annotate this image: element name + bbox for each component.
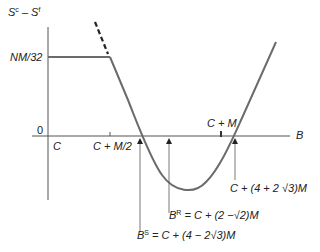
right-root-label: C + (4 + 2 √3)M [230,183,307,194]
x-tick-full: C + M [207,118,237,129]
y-tick-upper: NM/32 [10,52,42,63]
bs-rest: = C + (4 − 2√3)M [149,229,235,241]
br-rest: = C + (2 −√2)M [181,209,258,221]
y-axis-label: Sc – Sf [8,6,40,18]
parabola-curve [110,42,276,190]
arrowhead-bs [137,138,143,144]
x-tick-half: C + M/2 [93,141,132,152]
br-label: BR = C + (2 −√2)M [169,209,259,221]
arrowhead-br [166,138,172,144]
bs-label: BS = C + (4 − 2√3)M [137,229,235,241]
y-label-sup-f: f [38,6,40,13]
diagram-canvas [0,0,320,252]
dashed-segment [95,22,108,54]
y-tick-zero: 0 [37,125,43,136]
y-label-minus: – [19,6,31,18]
x-axis-label: B [296,130,303,141]
x-tick-origin: C [53,141,61,152]
